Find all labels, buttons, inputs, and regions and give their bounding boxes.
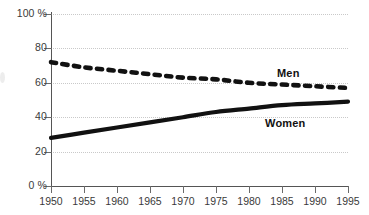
line-chart: 100 %806040200 % 19501955196019651970197…: [0, 0, 369, 215]
series-label-men: Men: [277, 67, 300, 79]
series-container: [0, 0, 369, 215]
series-label-women: Women: [265, 117, 306, 129]
series-line-men: [51, 62, 348, 88]
